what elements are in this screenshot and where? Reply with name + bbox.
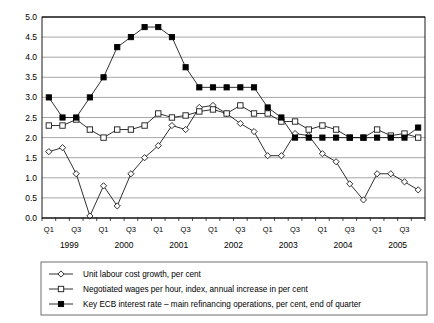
datapoint-s2-27 [415, 135, 420, 140]
datapoint-s3-15 [251, 85, 256, 90]
legend-item-2[interactable]: Negotiated wages per hour, index, annual… [49, 285, 309, 294]
datapoint-s2-0 [46, 123, 51, 128]
y-axis-label-5.0: 5.0 [25, 12, 37, 22]
datapoint-s3-26 [402, 135, 407, 140]
datapoint-s3-5 [115, 45, 120, 50]
x-axis-quarter-2003-Q1: Q1 [263, 225, 273, 234]
x-axis-quarter-2005-Q1: Q1 [372, 225, 382, 234]
datapoint-s3-12 [210, 85, 215, 90]
datapoint-s2-24 [374, 127, 379, 132]
x-axis-quarter-2000-Q3: Q3 [126, 225, 136, 234]
y-axis-label-0.5: 0.5 [25, 193, 37, 203]
x-axis-year-1999: 1999 [60, 240, 79, 250]
x-axis-quarter-2002-Q1: Q1 [208, 225, 218, 234]
datapoint-s3-19 [306, 135, 311, 140]
x-axis-quarter-2001-Q3: Q3 [181, 225, 191, 234]
x-axis-quarter-2004-Q3: Q3 [345, 225, 355, 234]
datapoint-s3-2 [74, 115, 79, 120]
datapoint-s3-21 [333, 135, 338, 140]
chart-background [0, 0, 434, 323]
datapoint-s3-10 [183, 65, 188, 70]
datapoint-s3-6 [128, 35, 133, 40]
datapoint-s2-19 [306, 127, 311, 132]
datapoint-s3-27 [416, 125, 421, 130]
datapoint-s3-8 [156, 24, 161, 29]
datapoint-s2-7 [142, 123, 147, 128]
y-axis-label-3.5: 3.5 [25, 72, 37, 82]
datapoint-s3-7 [142, 24, 147, 29]
datapoint-s2-5 [115, 127, 120, 132]
datapoint-s3-17 [279, 115, 284, 120]
x-axis-year-2000: 2000 [115, 240, 134, 250]
datapoint-s2-6 [128, 127, 133, 132]
x-axis-year-2005: 2005 [388, 240, 407, 250]
x-axis-year-2003: 2003 [279, 240, 298, 250]
y-axis-label-4.5: 4.5 [25, 32, 37, 42]
legend-label-2: Negotiated wages per hour, index, annual… [83, 285, 309, 294]
datapoint-s3-20 [320, 135, 325, 140]
x-axis-quarter-2000-Q1: Q1 [99, 225, 109, 234]
datapoint-s2-8 [156, 111, 161, 116]
datapoint-s2-14 [238, 103, 243, 108]
datapoint-s2-4 [101, 135, 106, 140]
datapoint-s3-9 [169, 35, 174, 40]
legend-label-3: Key ECB interest rate – main refinancing… [83, 300, 361, 309]
y-axis-label-0.0: 0.0 [25, 213, 37, 223]
legend-label-1: Unit labour cost growth, per cent [83, 270, 202, 279]
x-axis-quarter-2004-Q1: Q1 [317, 225, 327, 234]
datapoint-s3-0 [46, 95, 51, 100]
datapoint-s3-25 [388, 135, 393, 140]
datapoint-s3-14 [238, 85, 243, 90]
datapoint-s3-11 [197, 85, 202, 90]
x-axis-quarter-2001-Q1: Q1 [153, 225, 163, 234]
y-axis-label-4.0: 4.0 [25, 52, 37, 62]
x-axis-quarter-2005-Q3: Q3 [399, 225, 409, 234]
economic-indicators-line-chart: 0.00.51.01.52.02.53.03.54.04.55.0 Q1Q3Q1… [0, 0, 434, 323]
datapoint-s2-15 [251, 111, 256, 116]
datapoint-s2-3 [87, 127, 92, 132]
datapoint-s3-23 [361, 135, 366, 140]
datapoint-s2-21 [333, 127, 338, 132]
x-axis-year-2002: 2002 [224, 240, 243, 250]
datapoint-s3-22 [347, 135, 352, 140]
datapoint-s3-24 [375, 135, 380, 140]
datapoint-s3-3 [87, 95, 92, 100]
y-axis-label-1.0: 1.0 [25, 173, 37, 183]
chart-container: 0.00.51.01.52.02.53.03.54.04.55.0 Q1Q3Q1… [0, 0, 434, 323]
datapoint-s2-13 [224, 111, 229, 116]
datapoint-s2-1 [60, 123, 65, 128]
datapoint-s3-4 [101, 75, 106, 80]
x-axis-quarter-1999-Q1: Q1 [44, 225, 54, 234]
datapoint-s3-1 [60, 115, 65, 120]
datapoint-s2-9 [169, 115, 174, 120]
y-axis-label-3.0: 3.0 [25, 92, 37, 102]
x-axis-year-2004: 2004 [333, 240, 352, 250]
datapoint-s3-16 [265, 105, 270, 110]
x-axis-year-2001: 2001 [169, 240, 188, 250]
datapoint-s2-12 [210, 107, 215, 112]
x-axis-quarter-2003-Q3: Q3 [290, 225, 300, 234]
datapoint-s2-20 [320, 123, 325, 128]
y-axis-label-1.5: 1.5 [25, 153, 37, 163]
datapoint-s3-18 [292, 135, 297, 140]
legend-marker-filled-square [58, 301, 63, 306]
datapoint-s2-10 [183, 113, 188, 118]
datapoint-s2-11 [197, 109, 202, 114]
y-axis-label-2.0: 2.0 [25, 133, 37, 143]
y-axis-label-2.5: 2.5 [25, 113, 37, 123]
x-axis-quarter-2002-Q3: Q3 [235, 225, 245, 234]
legend-marker-open-square [58, 286, 63, 291]
datapoint-s3-13 [224, 85, 229, 90]
legend-item-3[interactable]: Key ECB interest rate – main refinancing… [49, 300, 361, 309]
datapoint-s2-18 [292, 119, 297, 124]
x-axis-quarter-1999-Q3: Q3 [71, 225, 81, 234]
datapoint-s2-16 [265, 111, 270, 116]
